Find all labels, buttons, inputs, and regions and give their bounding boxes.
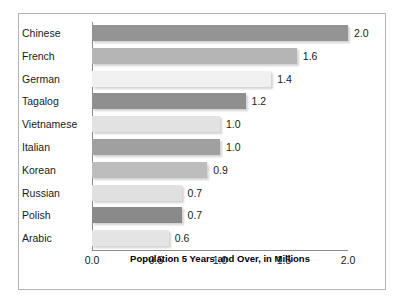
bar[interactable] — [92, 116, 220, 132]
bar-row: 1.2 — [92, 90, 348, 113]
bar[interactable] — [92, 71, 271, 87]
category-label: Vietnamese — [22, 113, 77, 136]
bar-value-label: 2.0 — [354, 25, 369, 41]
category-label: German — [22, 68, 60, 91]
bar-value-label: 1.0 — [226, 116, 241, 132]
bar[interactable] — [92, 230, 169, 246]
category-label: Tagalog — [22, 90, 59, 113]
bar[interactable] — [92, 93, 246, 109]
bar[interactable] — [92, 25, 348, 41]
bar-row: 2.0 — [92, 22, 348, 45]
category-label: French — [22, 45, 55, 68]
bar-row: 1.0 — [92, 113, 348, 136]
bar-value-label: 1.6 — [303, 48, 318, 64]
bar-value-label: 1.4 — [277, 71, 292, 87]
bar-value-label: 0.9 — [213, 162, 228, 178]
bar-value-label: 1.2 — [252, 93, 267, 109]
bar-row: 0.7 — [92, 182, 348, 205]
plot-area: 2.01.61.41.21.01.00.90.70.70.60.00.51.01… — [92, 22, 348, 250]
bar-row: 0.9 — [92, 159, 348, 182]
bar[interactable] — [92, 162, 207, 178]
bar-row: 0.7 — [92, 204, 348, 227]
bar-value-label: 0.7 — [188, 185, 203, 201]
category-label: Korean — [22, 159, 56, 182]
bar-row: 1.4 — [92, 68, 348, 91]
category-label: Arabic — [22, 227, 52, 250]
bar-value-label: 0.7 — [188, 207, 203, 223]
x-axis-line — [92, 250, 348, 251]
bar-row: 1.6 — [92, 45, 348, 68]
bar-value-label: 1.0 — [226, 139, 241, 155]
category-label: Polish — [22, 204, 51, 227]
bar-row: 1.0 — [92, 136, 348, 159]
bar[interactable] — [92, 48, 297, 64]
bar-value-label: 0.6 — [175, 230, 190, 246]
category-label: Chinese — [22, 22, 61, 45]
bar[interactable] — [92, 139, 220, 155]
chart-figure: ChineseFrenchGermanTagalogVietnameseItal… — [0, 0, 405, 304]
bar-row: 0.6 — [92, 227, 348, 250]
x-axis-title: Population 5 Years and Over, in Millions — [92, 253, 348, 264]
category-label: Russian — [22, 182, 60, 205]
category-axis-labels: ChineseFrenchGermanTagalogVietnameseItal… — [22, 22, 88, 250]
bar[interactable] — [92, 185, 182, 201]
bar[interactable] — [92, 207, 182, 223]
category-label: Italian — [22, 136, 50, 159]
